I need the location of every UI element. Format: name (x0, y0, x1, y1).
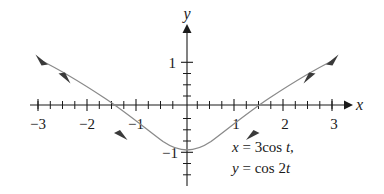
equation-2-operator: = cos 2 (239, 160, 286, 176)
equation-1-var: t, (286, 139, 294, 155)
curve-arrow-upper-left (36, 55, 49, 66)
y-axis: 1 −1 y (162, 5, 193, 186)
x-axis-label: x (355, 96, 363, 113)
parametric-curve-figure: −3 −2 −1 1 2 3 x (0, 0, 384, 194)
plot-canvas: −3 −2 −1 1 2 3 x (0, 0, 384, 194)
curve-arrow-upper-right (326, 55, 339, 66)
x-tick-label-neg2: −2 (79, 116, 95, 132)
equation-line-1: x = 3cos t, (231, 139, 294, 155)
curve-arrow-left-mid (59, 73, 71, 84)
x-tick-label-3: 3 (330, 116, 338, 132)
x-tick-label-neg1: −1 (128, 116, 144, 132)
y-axis-label: y (181, 5, 191, 23)
y-axis-arrowhead (183, 24, 192, 33)
equation-line-2: y = cos 2t (230, 160, 291, 176)
x-axis: −3 −2 −1 1 2 3 x (30, 96, 363, 132)
equation-2-lhs: y (230, 160, 239, 176)
x-axis-arrowhead (344, 101, 353, 110)
y-tick-label-1: 1 (169, 55, 177, 71)
x-tick-label-neg3: −3 (30, 116, 46, 132)
curve-arrow-right-mid (304, 73, 316, 84)
equation-2-var: t (286, 160, 291, 176)
x-tick-label-2: 2 (281, 116, 289, 132)
equation-annotation: x = 3cos t, y = cos 2t (230, 139, 294, 176)
equation-1-operator: = 3cos (239, 139, 286, 155)
curve-arrow-left-lower (114, 130, 128, 140)
